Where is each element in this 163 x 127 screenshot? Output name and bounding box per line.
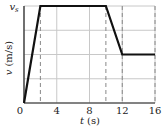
y-tick-vs: vs <box>9 1 19 14</box>
x-tick-12: 12 <box>116 105 129 116</box>
x-tick-16: 16 <box>149 105 162 116</box>
x-axis-label: t(s) <box>80 115 100 126</box>
x-tick-4: 4 <box>54 105 60 116</box>
y-axis-label: v(m/s) <box>3 41 14 76</box>
velocity-time-chart: vs 0481216 v(m/s) t(s) <box>0 0 163 127</box>
x-tick-0: 0 <box>17 105 23 116</box>
